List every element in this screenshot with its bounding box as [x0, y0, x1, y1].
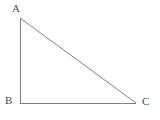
- vertex-label-c: C: [142, 96, 149, 107]
- vertex-label-a: A: [12, 3, 20, 14]
- triangle-side-ca-hypotenuse: [20, 18, 136, 103]
- geometry-figure-canvas: A B C: [0, 0, 160, 120]
- triangle-svg: [0, 0, 160, 120]
- vertex-label-b: B: [5, 95, 12, 106]
